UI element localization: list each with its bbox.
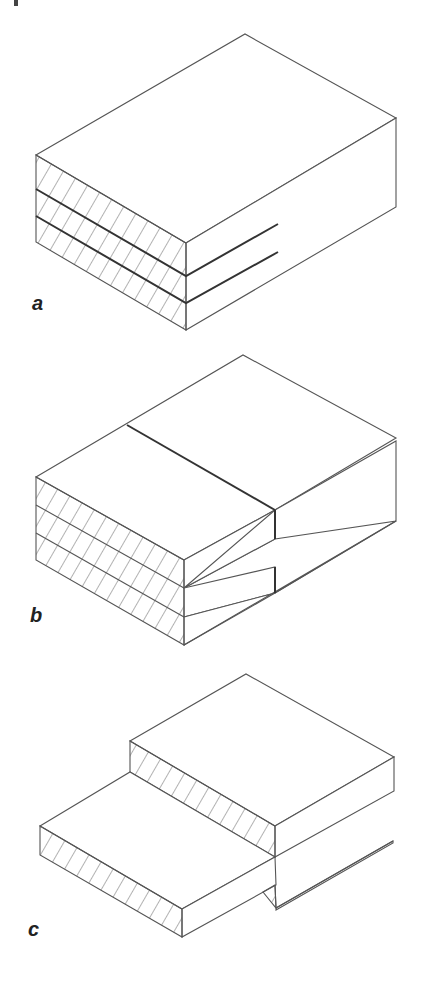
stray-mark [14, 0, 18, 6]
panel-label-b: b [30, 604, 42, 627]
lamination-diagram [0, 0, 430, 996]
panel-b-drawing [36, 355, 396, 645]
panel-label-c: c [28, 918, 39, 941]
panel-a-drawing [36, 34, 396, 330]
panel-c-drawing [40, 674, 394, 937]
panel-label-a: a [32, 292, 43, 315]
